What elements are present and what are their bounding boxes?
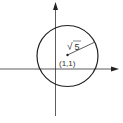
radius-root-symbol: √ — [67, 41, 73, 52]
circle-diagram: √ 5 (1,1) — [0, 0, 123, 123]
radius-label: 5 — [75, 42, 80, 52]
x-axis-arrow-icon — [111, 67, 119, 72]
center-point — [66, 54, 68, 56]
y-axis-arrow-icon — [53, 2, 58, 10]
center-label: (1,1) — [59, 59, 76, 68]
